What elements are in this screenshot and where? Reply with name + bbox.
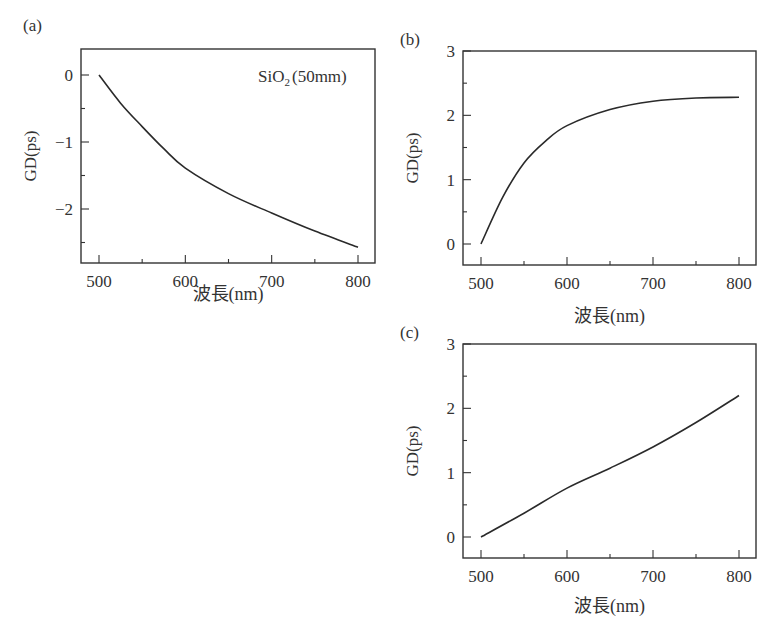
- y-tick-label: −1: [55, 133, 73, 152]
- x-tick-label: 500: [468, 567, 494, 586]
- y-axis-label: GD(ps): [403, 426, 422, 477]
- x-tick-label: 800: [726, 274, 752, 293]
- x-axis-label: 波長(nm): [574, 596, 645, 617]
- x-axis-label: 波長(nm): [574, 306, 645, 327]
- gd-curve: [99, 75, 358, 247]
- x-tick-label: 500: [468, 274, 494, 293]
- y-tick-label: 1: [447, 464, 456, 483]
- x-tick-label: 700: [640, 567, 666, 586]
- plot-frame: [463, 51, 756, 265]
- x-tick-label: 800: [345, 272, 371, 291]
- panel-label: (b): [400, 30, 420, 49]
- panel-label: (a): [23, 16, 42, 35]
- figure: 5006007008000−1−2(a)波長(nm)GD(ps)SiO2(50m…: [0, 0, 770, 632]
- y-tick-label: 2: [447, 399, 456, 418]
- chart-panel-a: 5006007008000−1−2(a)波長(nm)GD(ps)SiO2(50m…: [21, 16, 375, 305]
- y-tick-label: 0: [447, 528, 456, 547]
- x-tick-label: 600: [554, 567, 580, 586]
- x-axis-label: 波長(nm): [193, 284, 264, 305]
- y-tick-label: 2: [447, 106, 456, 125]
- panel-label: (c): [400, 323, 419, 342]
- chart-panel-c: 5006007008000123(c)波長(nm)GD(ps): [400, 323, 756, 617]
- chart-panel-b: 5006007008000123(b)波長(nm)GD(ps): [400, 30, 756, 327]
- y-tick-label: 1: [447, 171, 456, 190]
- x-tick-label: 700: [640, 274, 666, 293]
- plot-frame: [463, 344, 756, 558]
- x-tick-label: 500: [86, 272, 112, 291]
- y-tick-label: 0: [65, 66, 74, 85]
- x-tick-label: 800: [726, 567, 752, 586]
- gd-curve: [481, 395, 739, 537]
- x-tick-label: 600: [554, 274, 580, 293]
- gd-curve: [481, 97, 739, 244]
- y-axis-label: GD(ps): [21, 131, 40, 182]
- y-axis-label: GD(ps): [403, 133, 422, 184]
- y-tick-label: 3: [447, 335, 456, 354]
- material-annotation: SiO2(50mm): [258, 67, 347, 88]
- y-tick-label: 3: [447, 42, 456, 61]
- y-tick-label: 0: [447, 235, 456, 254]
- y-tick-label: −2: [55, 200, 73, 219]
